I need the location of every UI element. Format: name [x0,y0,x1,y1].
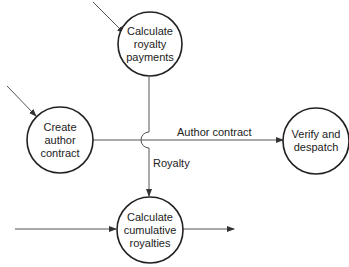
label-calc-cumulative: Calculate cumulative royalties [117,210,183,250]
input-flow-create-contract [7,86,36,116]
label-calc-royalty: Calculate royalty payments [118,24,182,64]
label-line: contract [40,147,79,160]
label-line: Calculate [127,25,173,38]
label-create-contract: Create author contract [27,120,93,160]
label-line: royalty [134,38,166,51]
label-line: cumulative [124,224,177,237]
label-line: despatch [294,141,339,154]
flow-label-royalty: Royalty [153,157,190,169]
label-line: royalties [130,237,171,250]
label-line: Create [43,121,76,134]
label-verify-despatch: Verify and despatch [283,127,349,155]
label-line: Calculate [127,211,173,224]
label-line: Verify and [292,128,341,141]
label-line: author [44,134,75,147]
label-line: payments [126,51,174,64]
royalty-flow-line [141,77,149,196]
flow-label-author-contract: Author contract [177,126,252,138]
